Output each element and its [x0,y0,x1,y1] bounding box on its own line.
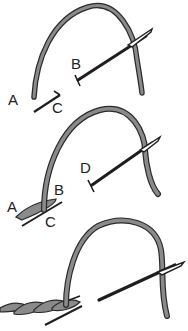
thread-fill [34,6,142,97]
stem-stitch-diagram: A C B A B C D [0,0,188,331]
label-d-step2: D [80,160,91,175]
label-b-step2: B [54,182,64,197]
label-a-step1: A [8,92,18,107]
step-3 [0,221,184,325]
label-c-step1: C [52,100,63,115]
stitch-illustration [0,0,188,331]
step-1 [34,6,152,112]
label-c-step2: C [45,214,56,229]
label-a-step2: A [7,199,17,214]
label-b-step1: B [71,56,81,71]
thread [66,221,167,316]
tick-mark [54,91,60,95]
thread [34,6,142,97]
